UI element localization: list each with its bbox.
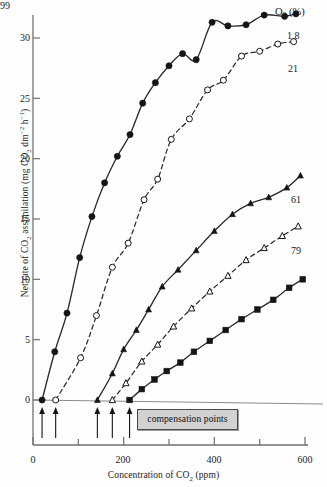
data-point-marker (300, 277, 306, 283)
data-point-marker (180, 51, 186, 57)
data-point-marker (191, 349, 197, 355)
data-point-marker (168, 136, 174, 142)
series-curve-61 (97, 176, 300, 400)
data-point-marker (39, 397, 45, 403)
data-point-marker (155, 176, 161, 182)
data-point-marker (152, 377, 158, 383)
data-point-marker (127, 397, 133, 403)
data-point-marker (93, 313, 99, 319)
data-point-marker (243, 257, 249, 263)
zero-baseline (33, 400, 323, 404)
data-point-marker (164, 368, 170, 374)
data-point-marker (125, 240, 131, 246)
data-point-marker (127, 131, 133, 137)
y-tick-label: 30 (8, 32, 30, 43)
y-tick-label: 5 (8, 334, 30, 345)
data-point-marker (261, 245, 267, 251)
data-point-marker (139, 386, 145, 392)
data-point-marker (186, 116, 192, 122)
compensation-point-arrow-head (109, 407, 115, 414)
compensation-point-arrow-head (39, 407, 45, 414)
data-point-marker (257, 48, 263, 54)
data-point-marker (114, 153, 120, 159)
data-point-marker (207, 338, 213, 344)
data-point-marker (239, 316, 245, 322)
data-point-marker (78, 355, 84, 361)
data-point-marker (220, 77, 226, 83)
compensation-points-label: compensation points (138, 410, 237, 429)
series-label-61: 61 (291, 194, 301, 205)
y-tick-label: 0 (8, 394, 30, 405)
data-point-marker (141, 197, 147, 203)
series-label-1-8: 1.8 (287, 30, 300, 41)
compensation-point-arrow-head (53, 407, 59, 414)
data-point-marker (140, 100, 146, 106)
data-point-marker (102, 180, 108, 186)
data-point-marker (261, 12, 267, 18)
series-curve-21 (56, 42, 294, 400)
data-point-marker (279, 232, 285, 238)
data-point-marker (193, 57, 199, 63)
data-point-marker (64, 310, 70, 316)
data-point-marker (109, 264, 115, 270)
data-point-marker (53, 397, 59, 403)
data-point-marker (223, 327, 229, 333)
data-point-marker (255, 307, 261, 313)
data-point-marker (225, 23, 231, 29)
series-curve-1-8 (42, 14, 296, 400)
x-axis-title: Concentration of CO2 (ppm) (0, 470, 327, 482)
y-axis-title: Net rate of CO2 assimilation (mg CO2 dm−… (18, 83, 32, 323)
data-point-marker (166, 63, 172, 69)
series-label-21: 21 (288, 63, 298, 74)
series-curve-79 (112, 226, 298, 400)
data-point-marker (109, 370, 115, 376)
data-point-marker (52, 349, 58, 355)
legend-title: O2 (%) (275, 6, 305, 20)
x-tick-label: 200 (103, 454, 143, 465)
data-point-marker (295, 223, 301, 229)
data-point-marker (207, 288, 213, 294)
data-point-marker (209, 19, 215, 25)
x-tick-label: 0 (13, 454, 53, 465)
data-point-marker (152, 80, 158, 86)
data-point-marker (178, 360, 184, 366)
data-point-marker (77, 255, 83, 261)
data-point-marker (205, 87, 211, 93)
data-point-marker (298, 172, 304, 178)
x-tick-label: 400 (194, 454, 234, 465)
data-point-marker (286, 285, 292, 291)
data-point-marker (225, 272, 231, 278)
data-point-marker (239, 53, 245, 59)
compensation-points-annotation: compensation points (137, 409, 238, 430)
data-point-marker (243, 22, 249, 28)
data-point-marker (275, 41, 281, 47)
series-label-99: 99 (0, 0, 10, 11)
compensation-point-arrow-head (127, 407, 133, 414)
series-label-79: 79 (291, 245, 301, 256)
compensation-point-arrow-head (94, 407, 100, 414)
x-tick-label: 600 (285, 454, 325, 465)
figure-panel: 0 5 10 15 20 25 30 0 200 400 600 Net rat… (0, 0, 327, 487)
data-point-marker (89, 213, 95, 219)
data-point-marker (270, 297, 276, 303)
